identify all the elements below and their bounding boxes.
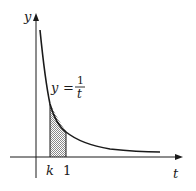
t-axis-label: t: [173, 166, 179, 181]
t-axis-arrow-icon: [175, 154, 183, 160]
curve-label-denominator: t: [77, 87, 82, 101]
curve-label-lhs: y: [50, 80, 59, 95]
graph-of-reciprocal-function: y t y = 1 t k 1: [0, 0, 196, 191]
tick-label-one: 1: [63, 163, 71, 178]
y-axis-label: y: [23, 9, 32, 24]
tick-label-k: k: [46, 163, 54, 178]
curve-label-numerator: 1: [77, 74, 84, 87]
curve-label-equals: =: [63, 80, 74, 95]
y-axis-arrow-icon: [33, 13, 39, 21]
